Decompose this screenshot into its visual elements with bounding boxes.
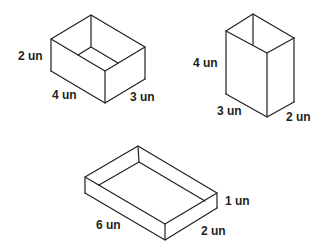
box-a-height-label: 2 un [18, 50, 43, 62]
box-a-width-label: 3 un [130, 91, 155, 103]
boxes-drawing [0, 0, 326, 250]
box-b-width-label: 2 un [286, 111, 311, 123]
box-b-length-label: 3 un [217, 105, 242, 117]
box-c-length-label: 6 un [96, 219, 121, 231]
box-c-height-label: 1 un [225, 195, 250, 207]
box-b-height-label: 4 un [193, 57, 218, 69]
box-b-open-prism [226, 14, 294, 117]
open-boxes-diagram: 2 un 4 un 3 un 4 un 3 un 2 un 1 un 6 un … [0, 0, 326, 250]
box-a-length-label: 4 un [52, 89, 77, 101]
box-c-width-label: 2 un [201, 225, 226, 237]
